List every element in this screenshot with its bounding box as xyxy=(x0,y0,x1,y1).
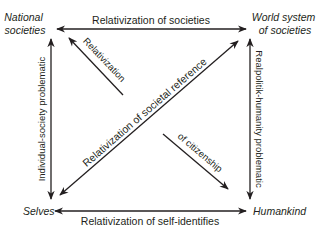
label-left: Individual-society problematic xyxy=(36,56,47,181)
label-top: Relativization of societies xyxy=(92,14,210,26)
label-bottom: Relativization of self-identifies xyxy=(81,215,219,227)
label-diagonal-lower: of citizenship xyxy=(176,130,225,174)
label-diagonal-upper: Relativization xyxy=(81,35,128,84)
node-national-societies: National societies xyxy=(4,11,46,36)
node-world-system: World system of societies xyxy=(252,11,319,36)
node-humankind: Humankind xyxy=(253,205,307,217)
node-selves: Selves xyxy=(23,205,55,217)
label-right: Realpolitik-humanity problematic xyxy=(254,50,265,188)
relativization-diagram: National societies World system of socie… xyxy=(0,0,333,241)
label-diagonal-main: Relativization of societal reference xyxy=(80,55,209,169)
arrow-diagonal-main xyxy=(60,41,238,195)
